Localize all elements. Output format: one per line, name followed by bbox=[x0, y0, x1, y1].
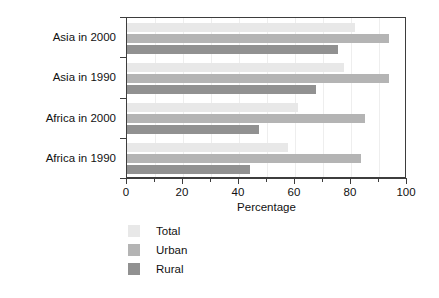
bar bbox=[127, 85, 316, 94]
bar bbox=[127, 125, 259, 134]
x-tick-major bbox=[126, 179, 127, 184]
x-tick-label: 0 bbox=[123, 186, 129, 199]
bar bbox=[127, 165, 250, 174]
x-tick-label: 60 bbox=[288, 186, 301, 199]
x-tick-major bbox=[182, 179, 183, 184]
category-axis-labels: Asia in 2000Asia in 1990Africa in 2000Af… bbox=[0, 17, 122, 178]
x-tick-label: 80 bbox=[344, 186, 357, 199]
x-tick-label: 20 bbox=[176, 186, 189, 199]
x-tick-major bbox=[350, 179, 351, 184]
plot-area bbox=[126, 17, 406, 178]
x-tick-major bbox=[406, 179, 407, 184]
x-tick-label: 100 bbox=[396, 186, 415, 199]
bar bbox=[127, 23, 355, 32]
x-tick-minor bbox=[210, 179, 211, 182]
bar bbox=[127, 114, 365, 123]
bar bbox=[127, 103, 298, 112]
x-tick-minor bbox=[378, 179, 379, 182]
legend-label: Urban bbox=[156, 243, 187, 257]
category-label: Asia in 1990 bbox=[53, 71, 116, 83]
category-label: Africa in 2000 bbox=[46, 112, 116, 124]
bar bbox=[127, 74, 389, 83]
bar bbox=[127, 34, 389, 43]
bar bbox=[127, 154, 361, 163]
bar bbox=[127, 143, 288, 152]
x-tick-label: 40 bbox=[232, 186, 245, 199]
x-axis-title: Percentage bbox=[126, 201, 407, 214]
bar bbox=[127, 63, 344, 72]
x-tick-minor bbox=[322, 179, 323, 182]
legend-label: Rural bbox=[156, 262, 183, 276]
bar-chart-figure: Asia in 2000Asia in 1990Africa in 2000Af… bbox=[0, 0, 439, 298]
category-label: Asia in 2000 bbox=[53, 31, 116, 43]
category-label: Africa in 1990 bbox=[46, 152, 116, 164]
x-tick-major bbox=[238, 179, 239, 184]
legend-swatch bbox=[128, 225, 140, 237]
x-tick-minor bbox=[154, 179, 155, 182]
x-tick-major bbox=[294, 179, 295, 184]
x-tick-minor bbox=[266, 179, 267, 182]
legend-swatch bbox=[128, 263, 140, 275]
bar bbox=[127, 45, 338, 54]
legend-swatch bbox=[128, 244, 140, 256]
legend-label: Total bbox=[156, 224, 180, 238]
